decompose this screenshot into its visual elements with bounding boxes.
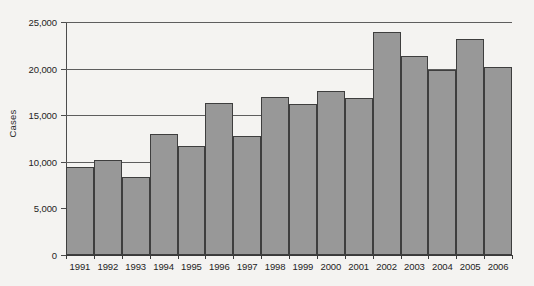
- bar: [66, 167, 94, 255]
- x-tick-mark: [456, 255, 457, 259]
- x-tick-label: 1995: [181, 261, 202, 272]
- plot-area: 05,00010,00015,00020,00025,000: [66, 22, 512, 255]
- x-tick-mark: [94, 255, 95, 259]
- bar: [233, 136, 261, 255]
- x-tick-mark: [317, 255, 318, 259]
- x-tick-mark: [373, 255, 374, 259]
- x-tick-label: 1992: [97, 261, 118, 272]
- x-tick-mark: [122, 255, 123, 259]
- x-tick-mark: [205, 255, 206, 259]
- x-tick-label: 2000: [320, 261, 341, 272]
- y-axis-title: Cases: [7, 94, 18, 154]
- x-tick-mark: [289, 255, 290, 259]
- x-tick-label: 1998: [265, 261, 286, 272]
- y-tick-label: 20,000: [29, 63, 57, 74]
- bar: [122, 177, 150, 255]
- x-tick-mark: [233, 255, 234, 259]
- bar: [178, 146, 206, 255]
- bar: [345, 98, 373, 256]
- y-tick-label: 0: [52, 250, 57, 261]
- x-tick-label: 2002: [376, 261, 397, 272]
- y-tick-label: 10,000: [29, 156, 57, 167]
- x-axis-labels: 1991199219931994199519961997199819992000…: [66, 261, 512, 277]
- bar: [150, 134, 178, 255]
- x-tick-label: 2005: [460, 261, 481, 272]
- bar: [428, 70, 456, 255]
- bar: [205, 103, 233, 255]
- x-tick-label: 1991: [70, 261, 91, 272]
- bar-chart: Cases 05,00010,00015,00020,00025,000 199…: [0, 0, 534, 286]
- bar: [261, 97, 289, 255]
- x-tick-label: 2004: [432, 261, 453, 272]
- x-tick-label: 1997: [237, 261, 258, 272]
- x-tick-label: 2006: [488, 261, 509, 272]
- bar: [317, 91, 345, 255]
- x-tick-label: 2003: [404, 261, 425, 272]
- x-tick-mark: [178, 255, 179, 259]
- x-tick-mark: [345, 255, 346, 259]
- y-tick-label: 5,000: [34, 203, 57, 214]
- x-tick-label: 1999: [293, 261, 314, 272]
- x-tick-label: 1994: [153, 261, 174, 272]
- x-tick-label: 2001: [348, 261, 369, 272]
- x-tick-mark: [484, 255, 485, 259]
- x-tick-label: 1993: [125, 261, 146, 272]
- x-tick-mark: [66, 255, 67, 259]
- bar: [289, 104, 317, 255]
- x-tick-label: 1996: [209, 261, 230, 272]
- x-tick-mark: [150, 255, 151, 259]
- x-tick-mark: [401, 255, 402, 259]
- x-tick-mark: [261, 255, 262, 259]
- y-tick-label: 25,000: [29, 17, 57, 28]
- x-tick-mark: [428, 255, 429, 259]
- x-tick-mark: [512, 255, 513, 259]
- bar: [401, 56, 429, 255]
- bar: [373, 32, 401, 255]
- bar-series: [66, 22, 512, 255]
- bar: [484, 67, 512, 255]
- y-tick-label: 15,000: [29, 110, 57, 121]
- bar: [456, 39, 484, 255]
- bar: [94, 160, 122, 255]
